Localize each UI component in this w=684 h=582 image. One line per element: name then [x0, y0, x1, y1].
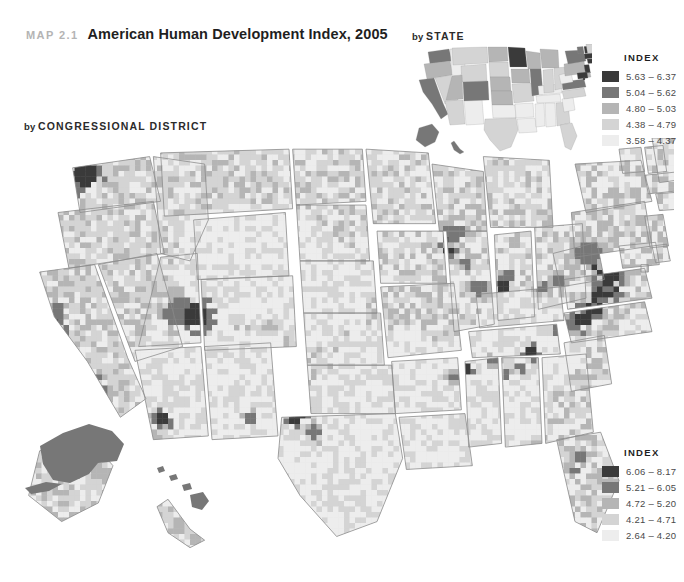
- cd-cell: [300, 424, 306, 430]
- cd-cell: [245, 485, 251, 491]
- cd-cell: [240, 474, 246, 480]
- cd-cell: [113, 342, 119, 348]
- cd-cell: [218, 441, 224, 447]
- cd-cell: [493, 281, 499, 287]
- cd-cell: [25, 210, 31, 216]
- cd-cell: [113, 254, 119, 260]
- cd-cell: [520, 331, 526, 337]
- cd-cell: [669, 259, 675, 265]
- cd-cell: [58, 540, 64, 546]
- cd-cell: [317, 210, 323, 216]
- cd-cell: [531, 138, 537, 144]
- cd-cell: [190, 402, 196, 408]
- cd-cell: [317, 452, 323, 458]
- cd-cell: [251, 138, 257, 144]
- cd-cell: [284, 523, 290, 529]
- cd-cell: [185, 474, 191, 480]
- cd-cell: [548, 540, 554, 546]
- cd-cell: [515, 479, 521, 485]
- cd-cell: [344, 237, 350, 243]
- cd-cell: [537, 556, 543, 562]
- cd-cell: [350, 391, 356, 397]
- cd-cell: [636, 347, 642, 353]
- cd-cell: [306, 430, 312, 436]
- cd-cell: [284, 424, 290, 430]
- cd-cell: [531, 567, 537, 570]
- cd-cell: [218, 254, 224, 260]
- cd-cell: [581, 347, 587, 353]
- cd-cell: [421, 562, 427, 568]
- cd-cell: [394, 424, 400, 430]
- cd-cell: [537, 254, 543, 260]
- cd-cell: [234, 177, 240, 183]
- cd-cell: [47, 364, 53, 370]
- district-legend-label: 2.64 – 4.20: [626, 530, 676, 541]
- cd-cell: [449, 232, 455, 238]
- cd-cell: [25, 430, 31, 436]
- cd-cell: [124, 529, 130, 535]
- cd-cell: [652, 386, 658, 392]
- cd-cell: [119, 353, 125, 359]
- cd-cell: [311, 182, 317, 188]
- cd-cell: [548, 518, 554, 524]
- cd-cell: [383, 166, 389, 172]
- cd-cell: [97, 540, 103, 546]
- cd-cell: [31, 413, 37, 419]
- cd-cell: [47, 501, 53, 507]
- cd-cell: [284, 562, 290, 568]
- cd-cell: [487, 507, 493, 513]
- cd-cell: [366, 259, 372, 265]
- cd-cell: [603, 232, 609, 238]
- cd-cell: [427, 155, 433, 161]
- cd-cell: [278, 215, 284, 221]
- cd-cell: [163, 160, 169, 166]
- cd-cell: [256, 375, 262, 381]
- cd-cell: [526, 474, 532, 480]
- cd-cell: [394, 375, 400, 381]
- cd-cell: [91, 320, 97, 326]
- cd-cell: [405, 166, 411, 172]
- cd-cell: [553, 342, 559, 348]
- cd-cell: [421, 507, 427, 513]
- cd-cell: [652, 270, 658, 276]
- cd-cell: [229, 545, 235, 551]
- cd-cell: [339, 276, 345, 282]
- cd-cell: [614, 386, 620, 392]
- cd-cell: [273, 320, 279, 326]
- cd-cell: [317, 518, 323, 524]
- cd-cell: [630, 182, 636, 188]
- cd-cell: [141, 265, 147, 271]
- cd-cell: [410, 188, 416, 194]
- cd-cell: [306, 512, 312, 518]
- cd-cell: [196, 441, 202, 447]
- cd-cell: [344, 199, 350, 205]
- cd-cell: [119, 226, 125, 232]
- cd-cell: [311, 166, 317, 172]
- cd-cell: [432, 413, 438, 419]
- cd-cell: [537, 364, 543, 370]
- cd-cell: [548, 199, 554, 205]
- cd-cell: [350, 320, 356, 326]
- cd-cell: [234, 496, 240, 502]
- cd-cell: [465, 303, 471, 309]
- cd-cell: [229, 292, 235, 298]
- cd-cell: [570, 402, 576, 408]
- cd-cell: [185, 325, 191, 331]
- cd-cell: [603, 226, 609, 232]
- cd-cell: [339, 485, 345, 491]
- cd-cell: [570, 391, 576, 397]
- cd-cell: [641, 347, 647, 353]
- cd-cell: [487, 347, 493, 353]
- cd-cell: [234, 430, 240, 436]
- cd-cell: [394, 292, 400, 298]
- cd-cell: [410, 518, 416, 524]
- cd-cell: [410, 210, 416, 216]
- cd-cell: [493, 347, 499, 353]
- cd-cell: [58, 155, 64, 161]
- cd-cell: [141, 237, 147, 243]
- cd-cell: [366, 369, 372, 375]
- cd-cell: [163, 298, 169, 304]
- state-mn: [508, 47, 527, 67]
- cd-cell: [537, 232, 543, 238]
- cd-cell: [42, 534, 48, 540]
